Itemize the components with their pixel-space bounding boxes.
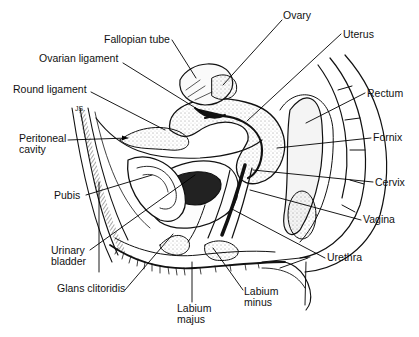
label-peritoneal-cavity: Peritoneal cavity bbox=[19, 133, 66, 155]
label-rectum: Rectum bbox=[367, 88, 403, 99]
label-urethra: Urethra bbox=[327, 252, 362, 263]
label-labium-majus: Labium majus bbox=[177, 303, 211, 325]
label-glans-clitoridis: Glans clitoridis bbox=[57, 283, 125, 294]
label-fornix: Fornix bbox=[373, 132, 402, 143]
label-uterus: Uterus bbox=[343, 29, 374, 40]
rectum-shape bbox=[280, 95, 333, 242]
label-round-ligament: Round ligament bbox=[13, 84, 87, 95]
artist-initials: JS. bbox=[75, 105, 85, 112]
vulva bbox=[110, 235, 285, 275]
label-ovarian-ligament: Ovarian ligament bbox=[39, 53, 118, 64]
anatomy-diagram: JS. Ovary Fallopian tube U bbox=[0, 0, 419, 337]
label-cervix: Cervix bbox=[375, 177, 405, 188]
label-pubis: Pubis bbox=[54, 190, 80, 201]
label-labium-minus: Labium minus bbox=[244, 286, 278, 308]
label-fallopian-tube: Fallopian tube bbox=[104, 34, 170, 45]
label-ovary: Ovary bbox=[283, 10, 311, 21]
label-vagina: Vagina bbox=[363, 214, 395, 225]
label-urinary-bladder: Urinary bladder bbox=[51, 245, 86, 267]
